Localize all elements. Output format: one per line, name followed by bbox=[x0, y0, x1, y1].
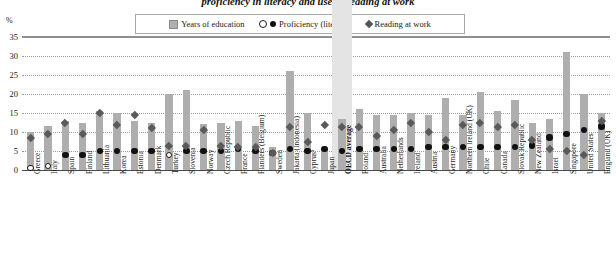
gridline-15 bbox=[22, 113, 610, 114]
x-tick-italy: Italy bbox=[51, 160, 59, 174]
legend-item-years-of-education: Years of education bbox=[169, 19, 244, 29]
y-tick-15: 15 bbox=[0, 109, 18, 117]
x-tick-england-uk-: England (UK) bbox=[604, 131, 612, 174]
y-tick-20: 20 bbox=[0, 90, 18, 98]
x-tick-spain: Spain bbox=[68, 157, 76, 174]
proficiency-marker-israel bbox=[546, 134, 553, 141]
x-tick-new-zealand: New Zealand bbox=[535, 133, 543, 174]
chart-legend: Years of education Proficiency (literacy… bbox=[135, 14, 465, 34]
filled-circle-swatch-icon bbox=[270, 21, 277, 28]
bar-jakarta-indonesia- bbox=[286, 71, 293, 170]
x-tick-france: France bbox=[241, 153, 249, 174]
proficiency-marker-norway bbox=[200, 148, 207, 155]
x-tick-sweden: Sweden bbox=[276, 150, 284, 174]
legend-label: Years of education bbox=[181, 19, 244, 29]
x-tick-turkey: Turkey bbox=[172, 152, 180, 174]
chart-container: proficiency in literacy and use of readi… bbox=[0, 0, 616, 267]
gridline-35 bbox=[22, 37, 610, 38]
x-tick-japan: Japan bbox=[328, 157, 336, 174]
x-tick-united-states: United States bbox=[587, 133, 595, 174]
y-axis-tick-labels: 35302520151050 bbox=[0, 37, 20, 170]
open-circle-swatch-icon bbox=[259, 20, 267, 28]
bar-lithuania bbox=[96, 111, 103, 170]
bar-austria bbox=[425, 115, 432, 170]
bar-canada bbox=[494, 111, 501, 170]
x-tick-korea: Korea bbox=[120, 155, 128, 174]
y-tick-30: 30 bbox=[0, 52, 18, 60]
bar-slovenia bbox=[183, 90, 190, 170]
bar-estonia bbox=[131, 121, 138, 170]
x-tick-flanders-belgium-: Flanders (Belgium) bbox=[258, 115, 266, 174]
x-tick-czech-republic: Czech Republic bbox=[224, 126, 232, 174]
x-tick-greece: Greece bbox=[34, 153, 42, 175]
x-tick-cyprus-: Cyprus¹ bbox=[310, 150, 318, 174]
x-tick-slovak-republic: Slovak Republic bbox=[518, 124, 526, 174]
proficiency-marker-spain bbox=[62, 152, 69, 159]
bar-chile bbox=[477, 92, 484, 170]
bar-slovak-republic bbox=[511, 100, 518, 170]
bar-poland bbox=[356, 109, 363, 170]
x-tick-ireland: Ireland bbox=[414, 152, 422, 174]
y-tick-5: 5 bbox=[0, 147, 18, 155]
gridline-25 bbox=[22, 75, 610, 76]
x-tick-denmark: Denmark bbox=[155, 146, 163, 174]
x-tick-slovenia: Slovenia bbox=[189, 147, 197, 174]
x-tick-australia: Australia bbox=[380, 146, 388, 174]
x-tick-israel: Israel bbox=[552, 157, 560, 174]
x-tick-norway: Norway bbox=[207, 150, 215, 174]
proficiency-marker-singapore bbox=[563, 131, 570, 138]
bar-spain bbox=[62, 121, 69, 170]
y-tick-35: 35 bbox=[0, 33, 18, 41]
legend-item-reading-at-work: Reading at work bbox=[366, 19, 431, 29]
proficiency-marker-estonia bbox=[131, 148, 138, 155]
x-tick-canada: Canada bbox=[501, 151, 509, 174]
x-tick-chile: Chile bbox=[483, 158, 491, 174]
chart-title: proficiency in literacy and use of readi… bbox=[0, 0, 616, 8]
bar-japan bbox=[321, 149, 328, 170]
x-tick-lithuania: Lithuania bbox=[103, 145, 111, 174]
x-tick-singapore: Singapore bbox=[570, 143, 578, 174]
x-tick-jakarta-indonesia-: Jakarta (Indonesia) bbox=[293, 116, 301, 174]
proficiency-marker-poland bbox=[356, 146, 363, 153]
bar-germany bbox=[442, 98, 449, 170]
diamond-swatch-icon bbox=[364, 20, 372, 28]
x-tick-finland: Finland bbox=[86, 151, 94, 174]
gridline-20 bbox=[22, 94, 610, 95]
legend-label: Reading at work bbox=[375, 19, 431, 29]
y-tick-10: 10 bbox=[0, 128, 18, 136]
x-tick-germany: Germany bbox=[449, 146, 457, 174]
proficiency-marker-chile bbox=[477, 144, 484, 151]
x-tick-poland: Poland bbox=[362, 153, 370, 174]
y-axis-unit-label: % bbox=[6, 16, 13, 25]
bar-turkey bbox=[165, 94, 172, 170]
proficiency-marker-cyprus- bbox=[304, 148, 311, 155]
x-tick-northern-ireland-uk-: Northern Ireland (UK) bbox=[466, 105, 474, 174]
x-tick-austria: Austria bbox=[431, 152, 439, 174]
bar-australia bbox=[373, 115, 380, 170]
proficiency-marker-finland bbox=[79, 152, 86, 159]
x-tick-netherlands: Netherlands bbox=[397, 137, 405, 174]
y-tick-25: 25 bbox=[0, 71, 18, 79]
x-tick-oecd-average: OECD average bbox=[345, 125, 353, 174]
y-tick-0: 0 bbox=[0, 166, 18, 174]
gridline-30 bbox=[22, 56, 610, 57]
reading-marker-japan bbox=[321, 120, 329, 128]
x-axis-tick-labels: GreeceItalySpainFinlandLithuaniaKoreaEst… bbox=[22, 172, 610, 267]
bar-swatch-icon bbox=[169, 20, 178, 29]
x-tick-estonia: Estonia bbox=[137, 151, 145, 174]
bar-netherlands bbox=[390, 115, 397, 170]
